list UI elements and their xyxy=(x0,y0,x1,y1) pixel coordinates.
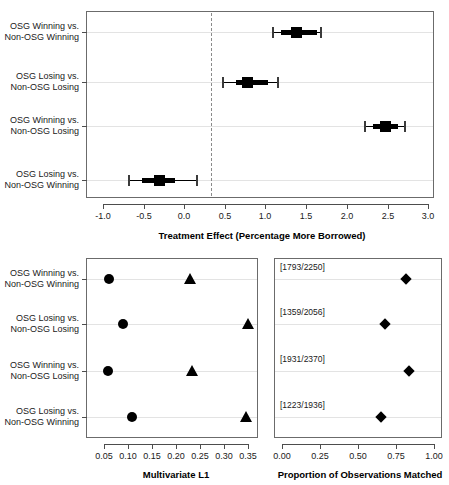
multivariate-l1-plot-area xyxy=(86,258,258,438)
l1-triangle-marker xyxy=(242,318,254,329)
x-tick-label: 1.0 xyxy=(259,211,272,221)
y-label-line2: Non-OSG Winning xyxy=(0,180,79,191)
ci-cap-low xyxy=(364,121,366,132)
x-tick xyxy=(184,204,185,209)
x-tick xyxy=(434,444,435,449)
x-tick xyxy=(306,204,307,209)
ci-cap-low xyxy=(272,27,274,38)
y-label-line2: Non-OSG Losing xyxy=(0,371,79,382)
y-axis-label-group-0: OSG Winning vs. Non-OSG Winning xyxy=(0,21,79,43)
match-count-annotation: [1359/2056] xyxy=(280,307,325,317)
y-tick xyxy=(82,417,87,418)
y-tick xyxy=(82,126,87,127)
gridline xyxy=(87,417,257,418)
l1-triangle-marker xyxy=(186,365,198,376)
x-tick-label: 0.75 xyxy=(387,451,405,461)
x-tick xyxy=(224,444,225,449)
match-count-annotation: [1223/1936] xyxy=(280,400,325,410)
l1-circle-marker xyxy=(118,319,128,329)
x-tick xyxy=(152,444,153,449)
x-tick-label: 0.25 xyxy=(191,451,209,461)
x-tick-label: -1.0 xyxy=(95,211,111,221)
gridline xyxy=(87,324,257,325)
y-tick xyxy=(82,371,87,372)
x-tick xyxy=(144,204,145,209)
y-label-line2: Non-OSG Winning xyxy=(0,279,79,290)
l1-circle-marker xyxy=(104,274,114,284)
x-tick-label: 0.15 xyxy=(143,451,161,461)
x-tick-label: 0.05 xyxy=(95,451,113,461)
y-label-line2: Non-OSG Winning xyxy=(0,417,79,428)
x-tick-label: 0.50 xyxy=(349,451,367,461)
ci-cap-high xyxy=(196,175,198,186)
x-tick-label: 1.00 xyxy=(425,451,443,461)
y-label-line2: Non-OSG Losing xyxy=(0,324,79,335)
x-tick xyxy=(265,204,266,209)
ci-cap-low xyxy=(222,77,224,88)
gridline xyxy=(275,417,441,418)
y-label-line1: OSG Losing vs. xyxy=(0,71,79,82)
x-tick-label: 0.30 xyxy=(215,451,233,461)
y-label-line2: Non-OSG Winning xyxy=(0,32,79,43)
x-tick xyxy=(225,204,226,209)
ci-cap-high xyxy=(404,121,406,132)
match-count-annotation: [1793/2250] xyxy=(280,262,325,272)
x-axis-title: Multivariate L1 xyxy=(143,469,210,480)
x-axis-title: Proportion of Observations Matched xyxy=(278,469,443,480)
x-tick xyxy=(128,444,129,449)
y-tick xyxy=(82,324,87,325)
x-tick-label: 1.5 xyxy=(300,211,313,221)
y-label-line1: OSG Winning vs. xyxy=(0,268,79,279)
x-tick xyxy=(320,444,321,449)
x-tick-label: 2.0 xyxy=(341,211,354,221)
gridline xyxy=(275,279,441,280)
y-axis-label-group-3: OSG Losing vs. Non-OSG Winning xyxy=(0,406,79,428)
gridline xyxy=(275,324,441,325)
treatment-effect-plot-area xyxy=(86,11,434,198)
x-tick xyxy=(104,444,105,449)
y-tick xyxy=(82,32,87,33)
x-tick xyxy=(428,204,429,209)
x-tick-label: -0.5 xyxy=(136,211,152,221)
x-tick-label: 0.00 xyxy=(273,451,291,461)
y-tick xyxy=(82,180,87,181)
y-axis-label-group-0: OSG Winning vs. Non-OSG Winning xyxy=(0,268,79,290)
y-axis-label-group-1: OSG Losing vs. Non-OSG Losing xyxy=(0,313,79,335)
point-estimate xyxy=(154,175,165,186)
y-label-line1: OSG Losing vs. xyxy=(0,406,79,417)
ci-cap-low xyxy=(128,175,130,186)
y-label-line1: OSG Winning vs. xyxy=(0,21,79,32)
y-label-line1: OSG Losing vs. xyxy=(0,313,79,324)
x-tick xyxy=(200,444,201,449)
l1-circle-marker xyxy=(127,412,137,422)
x-axis-title: Treatment Effect (Percentage More Borrow… xyxy=(159,230,366,241)
x-tick-label: 0.25 xyxy=(311,451,329,461)
ci-cap-high xyxy=(277,77,279,88)
x-tick-label: 2.5 xyxy=(382,211,395,221)
l1-triangle-marker xyxy=(184,273,196,284)
y-axis-label-group-2: OSG Winning vs. Non-OSG Losing xyxy=(0,360,79,382)
y-label-line1: OSG Losing vs. xyxy=(0,169,79,180)
point-estimate xyxy=(291,27,302,38)
x-tick xyxy=(282,444,283,449)
y-label-line1: OSG Winning vs. xyxy=(0,115,79,126)
match-count-annotation: [1931/2370] xyxy=(280,354,325,364)
x-tick xyxy=(248,444,249,449)
x-tick xyxy=(396,444,397,449)
x-tick-label: 0.5 xyxy=(219,211,232,221)
x-tick xyxy=(347,204,348,209)
x-tick-label: 0.35 xyxy=(239,451,257,461)
x-axis-line xyxy=(103,204,429,205)
l1-triangle-marker xyxy=(240,411,252,422)
x-tick xyxy=(176,444,177,449)
y-tick xyxy=(82,279,87,280)
y-label-line1: OSG Winning vs. xyxy=(0,360,79,371)
y-axis-label-group-3: OSG Losing vs. Non-OSG Winning xyxy=(0,169,79,191)
y-label-line2: Non-OSG Losing xyxy=(0,82,79,93)
ci-cap-high xyxy=(320,27,322,38)
point-estimate xyxy=(242,77,253,88)
x-tick-label: 0.10 xyxy=(119,451,137,461)
gridline xyxy=(275,371,441,372)
x-tick xyxy=(103,204,104,209)
x-tick xyxy=(358,444,359,449)
